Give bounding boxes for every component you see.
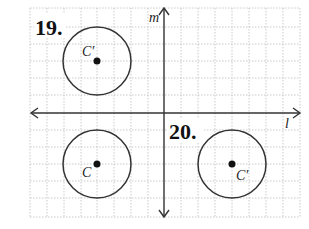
problem-number-20: 20. [169, 119, 197, 144]
problem-number-19: 19. [35, 15, 63, 40]
center-label-c-prime-19: C′ [82, 44, 95, 59]
center-label-c-prime-20: C′ [236, 168, 249, 183]
center-dot-original [94, 161, 101, 168]
center-label-c: C [82, 165, 92, 180]
axis-l-label: l [285, 116, 289, 131]
reflection-diagram: m l C′ C C′ 19. 20. [0, 0, 309, 229]
center-dot-20 [229, 161, 236, 168]
center-dot-19 [94, 58, 101, 65]
axis-m-label: m [149, 10, 159, 25]
axis-l [31, 108, 300, 118]
